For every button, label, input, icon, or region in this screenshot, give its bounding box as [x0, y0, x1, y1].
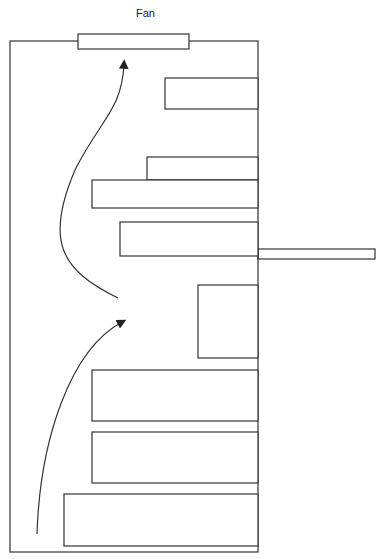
component-block	[147, 157, 258, 180]
component-block	[165, 78, 258, 109]
expansion-card	[258, 249, 375, 259]
airflow-diagram	[0, 0, 383, 559]
component-block	[92, 432, 258, 483]
component-block	[92, 370, 258, 421]
component-block	[198, 285, 258, 358]
fan	[78, 34, 189, 49]
component-block	[64, 494, 258, 546]
component-block	[92, 180, 258, 208]
component-block	[120, 222, 258, 256]
